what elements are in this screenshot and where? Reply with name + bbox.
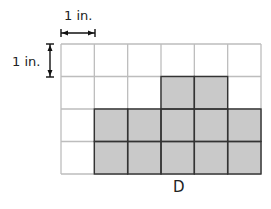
shaded-cell [194,77,227,110]
vertical-scale-label: 1 in. [12,54,40,69]
horizontal-scale-label: 1 in. [64,8,92,23]
figure-label: D [173,178,185,196]
shaded-cell [161,77,194,110]
horizontal-dimension-arrow-icon [61,29,95,37]
shaded-cell [194,109,227,142]
vertical-dimension-arrow-icon [46,44,54,77]
shaded-cell [128,142,161,175]
shaded-cell [161,109,194,142]
shaded-cell [161,142,194,175]
shaded-cell [228,142,261,175]
shaded-cell [128,109,161,142]
shaded-cell [94,142,127,175]
shaded-region [94,77,261,175]
shaded-cell [228,109,261,142]
shaded-cell [94,109,127,142]
grid-area-diagram [0,0,271,209]
shaded-cell [194,142,227,175]
